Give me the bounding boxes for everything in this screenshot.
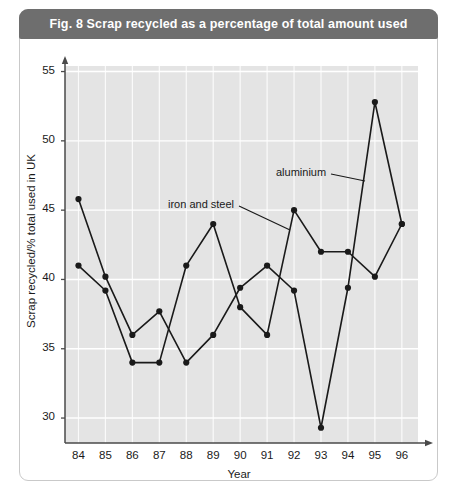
data-point-marker	[291, 207, 297, 213]
data-point-marker	[264, 262, 270, 268]
data-point-marker	[237, 304, 243, 310]
data-point-marker	[372, 274, 378, 280]
data-point-marker	[129, 332, 135, 338]
x-tick-label: 92	[279, 449, 309, 461]
x-tick-label: 89	[198, 449, 228, 461]
x-tick-label: 93	[306, 449, 336, 461]
y-tick-label: 35	[27, 341, 55, 353]
series-annotation-iron-and-steel: iron and steel	[168, 198, 234, 210]
figure-card: Fig. 8 Scrap recycled as a percentage of…	[0, 0, 459, 501]
data-point-marker	[237, 285, 243, 291]
data-point-marker	[102, 274, 108, 280]
x-tick-label: 84	[63, 449, 93, 461]
x-tick-label: 96	[387, 449, 417, 461]
data-point-marker	[183, 360, 189, 366]
y-tick-label: 55	[27, 64, 55, 76]
data-point-marker	[183, 262, 189, 268]
data-point-marker	[399, 221, 405, 227]
x-tick-label: 90	[225, 449, 255, 461]
y-tick-label: 50	[27, 133, 55, 145]
data-point-marker	[345, 285, 351, 291]
data-point-marker	[156, 360, 162, 366]
x-axis-title: Year	[73, 468, 405, 480]
series-annotation-aluminium: aluminium	[276, 166, 326, 178]
line-chart-svg	[0, 0, 459, 501]
x-tick-label: 95	[360, 449, 390, 461]
data-point-marker	[156, 308, 162, 314]
x-tick-label: 85	[90, 449, 120, 461]
x-axis-arrowhead	[425, 440, 433, 446]
data-point-marker	[102, 287, 108, 293]
data-point-marker	[75, 196, 81, 202]
x-tick-label: 88	[171, 449, 201, 461]
data-point-marker	[75, 262, 81, 268]
data-point-marker	[318, 249, 324, 255]
data-point-marker	[210, 221, 216, 227]
data-point-marker	[372, 99, 378, 105]
chart-plot-area: Scrap recycled/% total used in UK Year 3…	[0, 0, 459, 501]
data-point-marker	[129, 360, 135, 366]
data-point-marker	[345, 249, 351, 255]
y-tick-label: 40	[27, 271, 55, 283]
x-tick-label: 91	[252, 449, 282, 461]
data-point-marker	[291, 287, 297, 293]
x-tick-label: 87	[144, 449, 174, 461]
y-tick-label: 45	[27, 202, 55, 214]
x-tick-label: 94	[333, 449, 363, 461]
y-tick-label: 30	[27, 410, 55, 422]
data-point-marker	[264, 332, 270, 338]
y-axis-title: Scrap recycled/% total used in UK	[25, 126, 37, 356]
y-axis-arrowhead	[62, 56, 68, 64]
data-point-marker	[210, 332, 216, 338]
x-tick-label: 86	[117, 449, 147, 461]
data-point-marker	[318, 425, 324, 431]
plot-background	[65, 66, 418, 443]
